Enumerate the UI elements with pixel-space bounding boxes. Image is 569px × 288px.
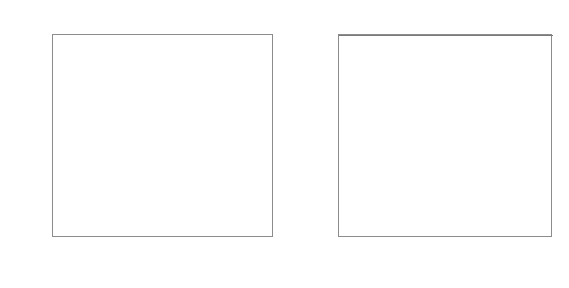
zero-reference-line — [339, 35, 553, 36]
plot-area-right — [338, 34, 552, 237]
chart-residuals-vs-predicted — [285, 0, 569, 288]
residual-diagnostics-figure — [0, 0, 569, 288]
normal-probability-fit-line — [53, 35, 274, 238]
chart-normal-plot-of-residuals — [0, 0, 285, 288]
plot-area-left — [52, 34, 273, 237]
